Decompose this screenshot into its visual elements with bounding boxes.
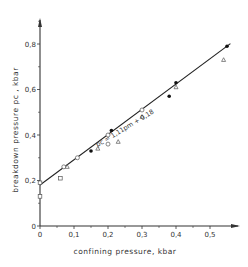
y-tick-label: 0,2	[25, 177, 36, 185]
filled-circle-marker	[167, 95, 171, 99]
open-square-marker	[59, 176, 63, 180]
scatter-chart: 00,10,20,30,40,500,20,40,60,8 confining …	[0, 0, 248, 267]
x-tick-label: 0,1	[68, 231, 79, 239]
y-tick-label: 0	[32, 223, 36, 231]
open-circle-marker	[140, 108, 144, 112]
x-tick-label: 0,3	[136, 231, 147, 239]
open-circle-marker	[75, 156, 79, 160]
y-axis-label: breakdown pressure pc , kbar	[11, 67, 20, 193]
fit-equation-label: pc = 1,11pm + 0,18	[95, 108, 156, 149]
y-axis-arrow-icon	[38, 18, 42, 27]
open-square-marker	[38, 195, 42, 199]
open-triangle-marker	[222, 58, 226, 62]
y-tick-label: 0,6	[25, 86, 37, 94]
x-tick-label: 0,2	[102, 231, 113, 239]
filled-circle-marker	[225, 44, 229, 48]
y-tick-label: 0,4	[25, 132, 37, 140]
filled-circle-marker	[89, 149, 93, 153]
y-tick-label: 0,8	[25, 41, 36, 49]
fit-line	[40, 44, 230, 185]
open-square-marker	[38, 181, 42, 185]
x-axis-arrow-icon	[231, 224, 240, 228]
filled-circle-marker	[174, 81, 178, 85]
x-axis-label: confining pressure, kbar	[74, 247, 177, 256]
x-tick-label: 0,4	[170, 231, 182, 239]
x-tick-label: 0,5	[204, 231, 215, 239]
open-triangle-marker	[116, 140, 120, 144]
x-tick-label: 0	[38, 231, 42, 239]
